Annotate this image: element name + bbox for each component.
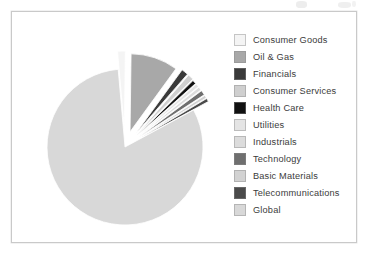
- legend-swatch-icon: [234, 68, 246, 80]
- chart-figure-frame: Consumer Goods Oil & Gas Financials Cons…: [11, 11, 357, 243]
- pie-slice-group: [47, 51, 208, 225]
- legend-label: Consumer Goods: [253, 35, 328, 45]
- legend-label: Basic Materials: [253, 171, 318, 181]
- legend-swatch-icon: [234, 136, 246, 148]
- legend-item-utilities[interactable]: Utilities: [234, 116, 358, 133]
- legend-swatch-icon: [234, 187, 246, 199]
- legend-item-oil-and-gas[interactable]: Oil & Gas: [234, 48, 358, 65]
- legend-label: Health Care: [253, 103, 304, 113]
- legend-item-consumer-services[interactable]: Consumer Services: [234, 82, 358, 99]
- legend-swatch-icon: [234, 204, 246, 216]
- legend-item-health-care[interactable]: Health Care: [234, 99, 358, 116]
- legend-label: Consumer Services: [253, 86, 336, 96]
- legend-swatch-icon: [234, 51, 246, 63]
- legend-swatch-icon: [234, 153, 246, 165]
- pie-chart-area: [12, 12, 238, 244]
- legend-label: Utilities: [253, 120, 284, 130]
- legend-item-financials[interactable]: Financials: [234, 65, 358, 82]
- scan-artifact: [352, 1, 356, 7]
- chart-legend: Consumer Goods Oil & Gas Financials Cons…: [234, 31, 358, 218]
- scan-artifact: [296, 1, 307, 8]
- scan-artifact: [338, 2, 351, 8]
- pie-chart-svg: [12, 12, 238, 244]
- legend-item-technology[interactable]: Technology: [234, 150, 358, 167]
- legend-swatch-icon: [234, 119, 246, 131]
- legend-swatch-icon: [234, 170, 246, 182]
- legend-item-industrials[interactable]: Industrials: [234, 133, 358, 150]
- legend-item-basic-materials[interactable]: Basic Materials: [234, 167, 358, 184]
- legend-label: Industrials: [253, 137, 297, 147]
- legend-item-global[interactable]: Global: [234, 201, 358, 218]
- legend-label: Global: [253, 205, 281, 215]
- legend-label: Technology: [253, 154, 301, 164]
- legend-label: Telecommunications: [253, 188, 340, 198]
- legend-swatch-icon: [234, 34, 246, 46]
- scan-artifacts: [0, 0, 372, 11]
- legend-swatch-icon: [234, 85, 246, 97]
- legend-swatch-icon: [234, 102, 246, 114]
- legend-label: Oil & Gas: [253, 52, 294, 62]
- legend-item-telecommunications[interactable]: Telecommunications: [234, 184, 358, 201]
- legend-item-consumer-goods[interactable]: Consumer Goods: [234, 31, 358, 48]
- legend-label: Financials: [253, 69, 296, 79]
